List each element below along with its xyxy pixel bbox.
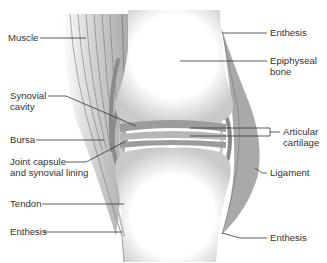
label-muscle: Muscle bbox=[8, 32, 38, 43]
label-ligament: Ligament bbox=[270, 167, 309, 178]
label-articular-cartilage: Articular cartilage bbox=[283, 126, 319, 148]
label-epiphyseal-bone: Epiphyseal bone bbox=[270, 55, 317, 77]
label-bursa: Bursa bbox=[10, 134, 35, 145]
articular-cartilage-shape bbox=[120, 120, 226, 148]
label-tendon: Tendon bbox=[10, 198, 41, 209]
label-enthesis-lower-left: Enthesis bbox=[10, 226, 47, 237]
joint-diagram bbox=[0, 0, 327, 263]
label-enthesis-upper-right: Enthesis bbox=[270, 27, 307, 38]
label-synovial-cavity: Synovial cavity bbox=[10, 90, 46, 112]
upper-bone bbox=[115, 10, 233, 126]
label-enthesis-lower-right: Enthesis bbox=[270, 232, 307, 243]
lower-bone bbox=[115, 148, 231, 263]
label-joint-capsule: Joint capsule and synovial lining bbox=[10, 156, 88, 178]
muscle-shape bbox=[62, 14, 128, 236]
